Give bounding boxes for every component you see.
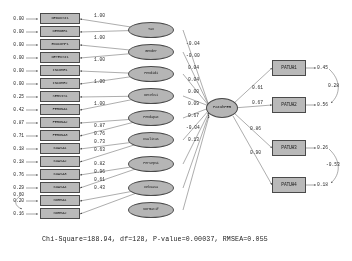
error-value: 0.00 <box>2 55 24 60</box>
structural-coefficient: 0.04 <box>188 65 199 70</box>
error-value: 0.00 <box>2 29 24 34</box>
latent-label: Normatif <box>128 207 174 211</box>
outcome-label: PATUH4 <box>272 183 306 188</box>
observed-label: KUASA3 <box>40 173 80 177</box>
observed-label: DEMOGR1 <box>40 30 80 34</box>
latent-label: Gender <box>128 49 174 53</box>
error-value: 0.25 <box>2 94 24 99</box>
latent-label: Kualitas <box>128 137 174 141</box>
outcome-error-arrows <box>306 68 316 185</box>
error-value: 0.18 <box>2 146 24 151</box>
sem-path-diagram: 0.00 0.00 0.00 0.00 0.00 0.00 0.25 0.42 … <box>0 0 352 261</box>
latent-label: Pendapat <box>128 115 174 119</box>
outcome-path-coefficient: 0.67 <box>252 100 263 105</box>
observed-label: DEDUKSI1 <box>40 17 80 21</box>
outcome-error-value: 0.26 <box>317 145 328 150</box>
outcome-path-coefficient: 0.90 <box>250 150 261 155</box>
error-value: 0.60 <box>2 192 24 197</box>
latent-label: Pendidi <box>128 71 174 75</box>
loading-value: 0.73 <box>94 139 105 144</box>
loading-value: 1.00 <box>94 79 105 84</box>
observed-label: DETEKSI1 <box>40 56 80 60</box>
loading-value: 0.82 <box>94 161 105 166</box>
error-arrows <box>26 19 38 214</box>
outcome-label: PATUH2 <box>272 103 306 108</box>
error-value: 0.00 <box>2 68 24 73</box>
outcome-error-value: 0.45 <box>317 65 328 70</box>
latent-label: Persepsi <box>128 161 174 165</box>
loading-value: 1.00 <box>94 101 105 106</box>
error-value: 0.42 <box>2 107 24 112</box>
loading-value: 0.96 <box>94 169 105 174</box>
observed-label: INCOME1 <box>40 69 80 73</box>
error-value: 0.00 <box>2 16 24 21</box>
observed-label: KUASA4 <box>40 186 80 190</box>
loading-value: 0.76 <box>94 131 105 136</box>
structural-coefficient: -0.00 <box>186 53 200 58</box>
observed-label: NORMA1 <box>40 199 80 203</box>
error-value: 0.87 <box>2 120 24 125</box>
observed-label: EDUCOMP1 <box>40 43 80 47</box>
observed-label: FERONA1 <box>40 108 80 112</box>
latent-label: Tax <box>128 27 174 31</box>
loading-value: 1.00 <box>94 13 105 18</box>
outcome-label: PATUH3 <box>272 146 306 151</box>
observed-label: FERONA3 <box>40 134 80 138</box>
structural-coefficient: 0.00 <box>188 89 199 94</box>
center-latent-label: PatuhPER <box>206 105 238 109</box>
structural-coefficient: 0.13 <box>188 137 199 142</box>
observed-label: NORMA2 <box>40 212 80 216</box>
loading-value: 0.61 <box>94 177 105 182</box>
loading-value: 1.00 <box>94 57 105 62</box>
error-value: 0.71 <box>2 133 24 138</box>
observed-label: KUASA1 <box>40 147 80 151</box>
observed-label: INCOME2 <box>40 82 80 86</box>
error-value: 0.00 <box>2 81 24 86</box>
error-value: 0.29 <box>2 185 24 190</box>
outcome-error-value: 0.56 <box>317 102 328 107</box>
outcome-path-coefficient: 0.86 <box>250 126 261 131</box>
structural-coefficient: 0.67 <box>188 113 199 118</box>
loading-value: 0.87 <box>94 123 105 128</box>
structural-coefficient: 0.09 <box>188 101 199 106</box>
outcome-path-coefficient: 0.61 <box>252 85 263 90</box>
error-value: 0.76 <box>2 172 24 177</box>
fit-statistics: Chi-Square=188.94, df=128, P-value=0.000… <box>42 236 268 243</box>
structural-coefficient: -0.04 <box>186 41 200 46</box>
structural-coefficient: -0.04 <box>186 125 200 130</box>
error-value: 0.16 <box>2 211 24 216</box>
observed-label: FERONA2 <box>40 121 80 125</box>
loading-value: 0.63 <box>94 147 105 152</box>
outcome-label: PATUH1 <box>272 66 306 71</box>
loading-value: 1.00 <box>94 35 105 40</box>
correlation-value: -0.53 <box>326 162 340 167</box>
error-value: 0.00 <box>2 42 24 47</box>
loading-value: 0.43 <box>94 185 105 190</box>
outcome-error-value: 0.18 <box>317 182 328 187</box>
latent-label: Deteksi <box>128 93 174 97</box>
correlation-value: 0.28 <box>328 83 339 88</box>
error-value: 0.20 <box>2 198 24 203</box>
latent-label: Kekuasa <box>128 185 174 189</box>
observed-label: KUASA2 <box>40 160 80 164</box>
observed-label: SERVIS1 <box>40 95 80 99</box>
error-value: 0.18 <box>2 159 24 164</box>
structural-coefficient: 0.04 <box>188 77 199 82</box>
